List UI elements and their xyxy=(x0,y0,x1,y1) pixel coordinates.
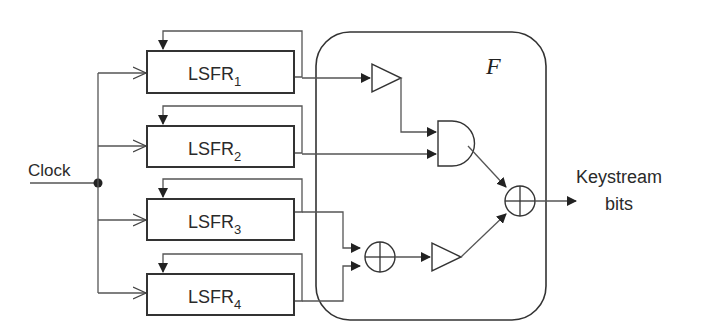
clock-input xyxy=(30,73,146,293)
lsfr-3: LSFR3 xyxy=(147,179,302,240)
xor-gate-output-icon xyxy=(505,186,535,216)
diagram-canvas: Clock LSFR1 LSFR2 LSFR3 LSFR4 F xyxy=(0,0,705,333)
lsfr-4: LSFR4 xyxy=(147,254,302,315)
and-gate-icon xyxy=(438,121,475,166)
xor-gate-1-icon xyxy=(365,242,395,272)
function-f-label: F xyxy=(485,53,501,79)
function-f-box xyxy=(316,32,546,320)
output-label-line2: bits xyxy=(605,194,633,214)
lsfr-2: LSFR2 xyxy=(147,106,302,167)
not-gate-1-icon xyxy=(372,64,401,92)
clock-label: Clock xyxy=(28,161,71,180)
lsfr-1: LSFR1 xyxy=(147,31,302,93)
output-label-line1: Keystream xyxy=(576,167,662,187)
not-gate-2-icon xyxy=(432,243,461,271)
